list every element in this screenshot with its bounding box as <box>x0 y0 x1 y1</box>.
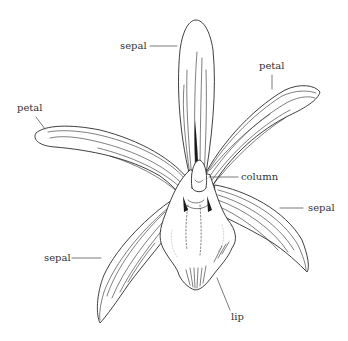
orchid-diagram: sepal petal petal column sepal sepal lip <box>0 0 348 341</box>
label-sepal-top: sepal <box>120 41 147 51</box>
petal-left <box>35 126 190 198</box>
leader-petal-left <box>36 117 45 129</box>
sepal-top <box>179 20 215 185</box>
label-petal-left: petal <box>17 103 43 113</box>
label-sepal-left: sepal <box>44 253 71 263</box>
label-sepal-right: sepal <box>308 203 335 213</box>
orchid-illustration <box>0 0 348 341</box>
label-lip: lip <box>231 312 244 322</box>
leader-lip <box>217 278 230 310</box>
label-column: column <box>241 172 278 182</box>
label-petal-right: petal <box>259 61 285 71</box>
